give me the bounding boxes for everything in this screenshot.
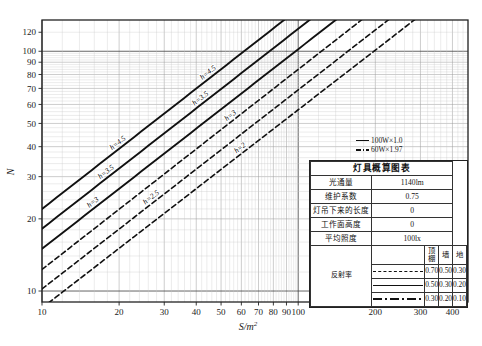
reflectance-v-floor-3: 0.10: [453, 292, 467, 306]
y-tick-label-60: 60: [27, 100, 37, 110]
x-tick-label-40: 40: [192, 307, 202, 317]
row-key-work-plane-height: 工作面高度: [311, 218, 372, 232]
table-row: 灯吊下来的长度 0: [311, 204, 467, 218]
x-tick-label-400: 400: [446, 307, 460, 317]
row-key-luminous-flux: 光通量: [311, 176, 372, 190]
x-tick-label-100: 100: [291, 307, 305, 317]
legend-table: 灯具概算图表 光通量 1140lm 维护系数 0.75 灯吊下来的长度 0 工作…: [309, 160, 468, 308]
y-tick-label-20: 20: [27, 214, 37, 224]
reflectance-v-ceiling-1: 0.70: [425, 264, 439, 278]
y-tick-label-90: 90: [27, 57, 37, 67]
x-tick-label-200: 200: [369, 307, 383, 317]
y-axis-title: N: [5, 167, 16, 176]
annotation-row-60w: 60W×1.97: [356, 145, 442, 154]
reflectance-v-ceiling-2: 0.50: [425, 278, 439, 292]
reflectance-col-floor: 地: [453, 246, 467, 265]
reflectance-v-wall-3: 0.20: [439, 292, 453, 306]
reflectance-v-floor-1: 0.30: [453, 264, 467, 278]
row-value-maintenance-factor: 0.75: [372, 190, 453, 204]
y-tick-label-100: 100: [23, 46, 37, 56]
legend-table-grid: 灯具概算图表 光通量 1140lm 维护系数 0.75 灯吊下来的长度 0 工作…: [310, 161, 467, 307]
x-tick-label-300: 300: [414, 307, 428, 317]
x-tick-label-30: 30: [160, 307, 170, 317]
reflectance-v-wall-2: 0.30: [439, 278, 453, 292]
y-tick-label-80: 80: [27, 70, 37, 80]
row-key-average-illuminance: 平均照度: [311, 232, 372, 246]
chart-figure: 1020304050607080901002003004001020304050…: [0, 0, 482, 346]
swatch-dashdot: [372, 292, 425, 306]
x-tick-label-50: 50: [217, 307, 227, 317]
row-value-suspension-length: 0: [372, 204, 453, 218]
y-tick-label-50: 50: [27, 119, 37, 129]
wattage-annotation: 100W×1.0 60W×1.97: [356, 136, 442, 154]
y-tick-label-10: 10: [27, 286, 37, 296]
row-value-luminous-flux: 1140lm: [372, 176, 453, 190]
dashdot-line-sample-icon: [356, 149, 369, 151]
legend-title: 灯具概算图表: [311, 162, 453, 176]
reflectance-col-wall: 墙: [439, 246, 453, 265]
swatch-dashed: [372, 264, 425, 278]
dashdot-line-sample-icon: [373, 298, 423, 300]
reflectance-swatch-header: [372, 246, 425, 265]
solid-line-sample-icon: [373, 285, 423, 286]
swatch-solid: [372, 278, 425, 292]
table-row: 平均照度 100lx: [311, 232, 467, 246]
y-tick-label-40: 40: [27, 142, 37, 152]
y-tick-label-30: 30: [27, 172, 37, 182]
x-tick-label-20: 20: [115, 307, 125, 317]
annotation-row-100w: 100W×1.0: [356, 136, 442, 145]
reflectance-header-row: 反射率 顶棚 墙 地: [311, 246, 467, 265]
x-tick-label-10: 10: [38, 307, 48, 317]
reflectance-v-wall-1: 0.50: [439, 264, 453, 278]
dashed-line-sample-icon: [373, 271, 423, 272]
table-row: 光通量 1140lm: [311, 176, 467, 190]
x-tick-label-90: 90: [282, 307, 292, 317]
x-tick-label-80: 80: [269, 307, 279, 317]
reflectance-v-ceiling-3: 0.30: [425, 292, 439, 306]
x-axis-title: S/m2: [239, 320, 258, 332]
y-tick-label-70: 70: [27, 84, 37, 94]
reflectance-row-label: 反射率: [311, 246, 372, 307]
reflectance-col-ceiling: 顶棚: [425, 246, 439, 265]
legend-title-row: 灯具概算图表: [311, 162, 467, 176]
table-row: 维护系数 0.75: [311, 190, 467, 204]
solid-line-sample-icon: [356, 140, 369, 141]
annotation-text-60w: 60W×1.97: [371, 145, 402, 154]
row-value-work-plane-height: 0: [372, 218, 453, 232]
annotation-text-100w: 100W×1.0: [371, 136, 402, 145]
y-tick-label-120: 120: [23, 27, 37, 37]
reflectance-v-floor-2: 0.20: [453, 278, 467, 292]
table-row: 工作面高度 0: [311, 218, 467, 232]
row-value-average-illuminance: 100lx: [372, 232, 453, 246]
row-key-suspension-length: 灯吊下来的长度: [311, 204, 372, 218]
row-key-maintenance-factor: 维护系数: [311, 190, 372, 204]
x-tick-label-70: 70: [254, 307, 264, 317]
x-tick-label-60: 60: [237, 307, 247, 317]
